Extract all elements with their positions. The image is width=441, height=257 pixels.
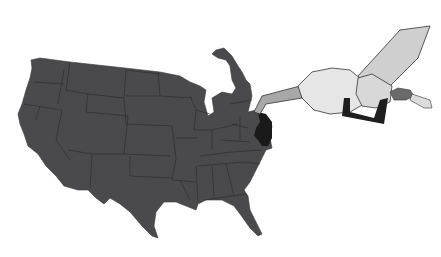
illustration-canvas (0, 0, 441, 257)
us-map-gas-pump-illustration (0, 0, 441, 257)
hose-end (410, 94, 432, 108)
us-map (18, 48, 272, 238)
nozzle-body (298, 68, 364, 114)
nozzle-spout-icon (254, 86, 302, 114)
gas-nozzle (254, 26, 432, 124)
us-map-body (18, 48, 272, 238)
